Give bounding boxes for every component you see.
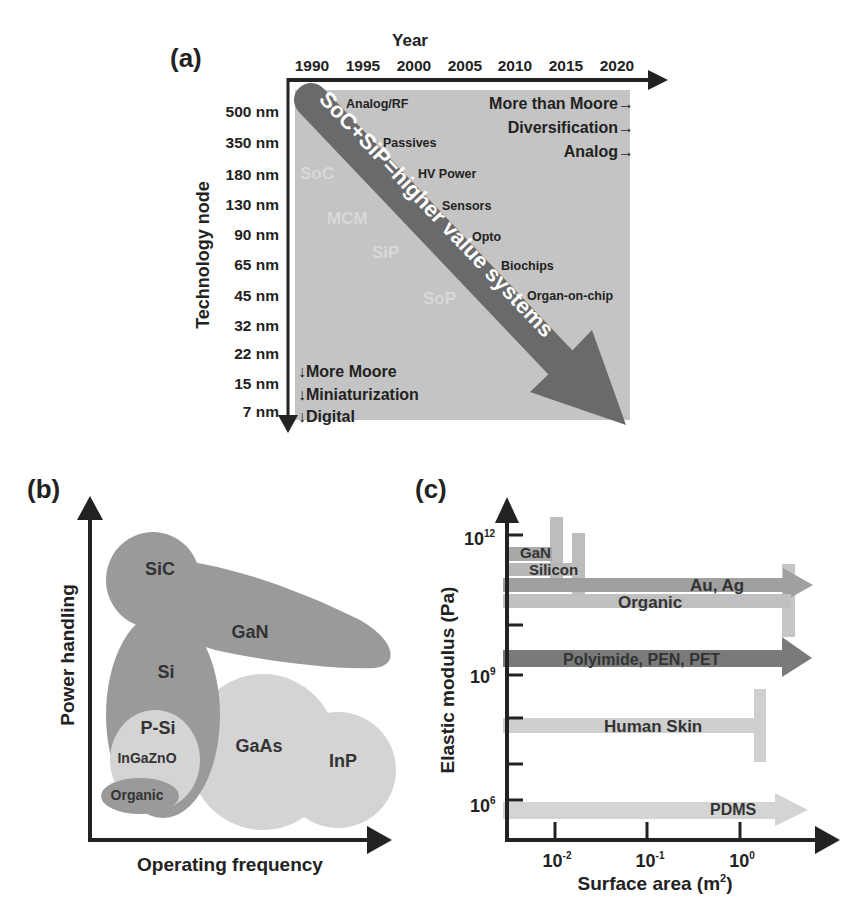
x-tick-1e-2: 10-2 <box>543 850 572 871</box>
year-tick: 1990 <box>295 57 329 74</box>
item-hv-power: HV Power <box>418 167 476 181</box>
year-tick: 2020 <box>600 57 634 74</box>
node-tick: 500 nm <box>226 103 279 120</box>
label-au-ag: Au, Ag <box>690 576 744 595</box>
node-tick: 7 nm <box>243 403 279 420</box>
figure-canvas: (a) Year 1990 1995 2000 2005 2010 2015 2… <box>0 0 850 915</box>
label-silicon: Silicon <box>529 561 578 578</box>
label-miniaturization: ↓Miniaturization <box>298 386 419 403</box>
label-si: Si <box>157 662 174 682</box>
panel-c: (c) GaN Silicon Au, A <box>415 474 840 894</box>
y-tick-1e12: 1012 <box>464 528 496 549</box>
label-analog: Analog→ <box>564 143 634 160</box>
item-passives: Passives <box>383 136 437 150</box>
label-organic: Organic <box>111 787 164 803</box>
label-polyimide-pen-pet: Polyimide, PEN, PET <box>563 651 721 668</box>
x-tick-1e-1: 10-1 <box>636 850 665 871</box>
panel-a-label: (a) <box>170 43 202 73</box>
item-sensors: Sensors <box>442 199 491 213</box>
node-tick: 45 nm <box>234 287 279 304</box>
y-axis-title-power-handling: Power handling <box>57 584 78 725</box>
x-tick-labels: 10-2 10-1 100 <box>543 850 756 871</box>
bar-pdms <box>503 793 808 826</box>
y-tick-1e9: 109 <box>470 666 496 687</box>
year-tick: 2010 <box>498 57 532 74</box>
label-more-moore: ↓More Moore <box>298 363 397 380</box>
node-tick: 350 nm <box>226 134 279 151</box>
y-axis-arrowhead <box>495 497 519 523</box>
x-tick-1e0: 100 <box>729 850 755 871</box>
item-biochips: Biochips <box>501 259 554 273</box>
faint-label-soc: SoC <box>300 164 334 183</box>
node-ticks: 500 nm 350 nm 180 nm 130 nm 90 nm 65 nm … <box>226 103 279 420</box>
y-tick-1e6: 106 <box>470 795 496 816</box>
node-tick: 130 nm <box>226 196 279 213</box>
faint-label-sip: SiP <box>372 243 399 262</box>
label-p-si: P-Si <box>140 718 175 738</box>
x-axis-title-year: Year <box>392 31 428 50</box>
x-tick-marks <box>555 822 740 840</box>
y-axis-title-elastic-modulus: Elastic modulus (Pa) <box>437 587 458 774</box>
x-axis-arrowhead <box>648 70 668 90</box>
label-more-than-moore: More than Moore→ <box>489 95 634 112</box>
label-ingazno: InGaZnO <box>117 750 176 766</box>
year-tick: 2000 <box>397 57 431 74</box>
x-axis-title-operating-frequency: Operating frequency <box>137 854 323 875</box>
node-tick: 65 nm <box>234 256 279 273</box>
label-digital: ↓Digital <box>298 408 355 425</box>
label-diversification: Diversification→ <box>508 119 634 136</box>
node-tick: 15 nm <box>234 375 279 392</box>
panel-b: (b) SiC GaN Si P-Si InGaZnO GaAs InP Org… <box>27 474 396 875</box>
label-gan: GaN <box>231 622 268 642</box>
label-sic: SiC <box>145 559 175 579</box>
year-ticks: 1990 1995 2000 2005 2010 2015 2020 <box>295 57 634 74</box>
label-gaas: GaAs <box>235 736 282 756</box>
x-axis-arrowhead <box>367 826 392 854</box>
item-organ-on-chip: Organ-on-chip <box>527 289 613 303</box>
panel-a: (a) Year 1990 1995 2000 2005 2010 2015 2… <box>170 31 668 433</box>
node-tick: 32 nm <box>234 317 279 334</box>
panel-c-label: (c) <box>415 474 447 504</box>
label-human-skin: Human Skin <box>604 717 702 736</box>
y-axis-title-technology-node: Technology node <box>193 181 213 329</box>
item-opto: Opto <box>472 230 502 244</box>
faint-label-sop: SoP <box>423 289 456 308</box>
year-tick: 2005 <box>448 57 483 74</box>
label-pdms: PDMS <box>710 801 757 818</box>
y-axis-arrowhead <box>77 496 103 520</box>
year-tick: 2015 <box>549 57 584 74</box>
faint-label-mcm: MCM <box>327 209 368 228</box>
node-tick: 22 nm <box>234 345 279 362</box>
node-tick: 90 nm <box>234 226 279 243</box>
label-organic: Organic <box>618 593 682 612</box>
y-tick-labels: 1012 109 106 <box>464 528 496 816</box>
label-inp: InP <box>329 751 357 771</box>
x-axis-arrowhead <box>815 826 840 854</box>
label-gan: GaN <box>520 544 551 561</box>
item-analog-rf: Analog/RF <box>346 97 409 111</box>
panel-b-label: (b) <box>27 474 60 504</box>
year-tick: 1995 <box>346 57 381 74</box>
x-axis-title-surface-area: Surface area (m2) <box>577 872 732 894</box>
node-tick: 180 nm <box>226 166 279 183</box>
y-axis-arrowhead <box>278 415 298 433</box>
